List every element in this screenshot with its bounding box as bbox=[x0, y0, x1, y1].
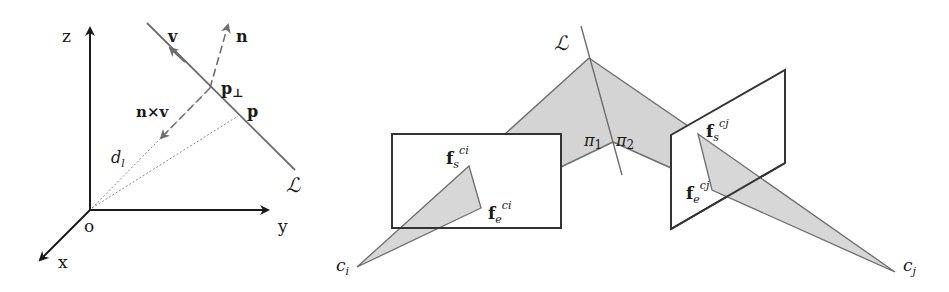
v-label: v bbox=[167, 27, 178, 46]
x-axis-label: x bbox=[58, 252, 68, 272]
fe-ci-label: feci bbox=[488, 199, 512, 226]
z-axis-label: z bbox=[62, 26, 71, 46]
n-label: n bbox=[236, 27, 248, 46]
d-l-label: dl bbox=[111, 148, 125, 170]
two-view-diagram: ℒ π1 π2 fsci feci ci fscj fecj cj bbox=[336, 26, 917, 278]
nxv-label: n×v bbox=[136, 103, 169, 121]
origin-label: o bbox=[84, 216, 94, 236]
camera-cj-label: cj bbox=[903, 255, 917, 278]
figure-canvas: z y x o v n n×v p⊥ p dl ℒ ℒ π1 bbox=[0, 0, 949, 292]
fs-ci-label: fsci bbox=[446, 144, 469, 171]
v-vector-arrow bbox=[170, 48, 185, 62]
p-label: p bbox=[247, 102, 258, 121]
line-L-label: ℒ bbox=[286, 173, 301, 197]
y-axis-label: y bbox=[277, 216, 288, 236]
coordinate-diagram: z y x o v n n×v p⊥ p dl ℒ bbox=[40, 23, 301, 272]
line-L-3d-label: ℒ bbox=[554, 31, 569, 55]
projection-triangle-j bbox=[698, 134, 895, 272]
projection-triangle-i bbox=[357, 166, 481, 267]
camera-ci-label: ci bbox=[336, 255, 349, 278]
p-perp-label: p⊥ bbox=[221, 79, 244, 100]
